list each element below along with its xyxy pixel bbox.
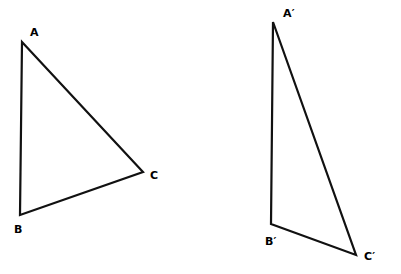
label-a-prime: A′ (283, 8, 295, 19)
figure-background (0, 0, 401, 274)
label-c: C (150, 170, 158, 181)
label-c-prime: C′ (364, 251, 375, 262)
label-b-prime: B′ (265, 236, 277, 247)
label-b: B (14, 224, 23, 235)
geometry-figure (0, 0, 401, 274)
figure-canvas: A B C A′ B′ C′ (0, 0, 401, 274)
label-a: A (30, 27, 39, 38)
